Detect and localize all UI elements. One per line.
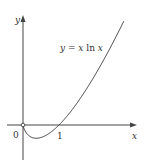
x-axis-label: x xyxy=(132,131,137,141)
y-axis-arrow-icon xyxy=(21,15,26,22)
function-curve xyxy=(23,21,123,138)
chart: y x 0 1 y = x ln x xyxy=(0,0,147,166)
tick-label-1: 1 xyxy=(57,131,63,141)
origin-open-circle xyxy=(21,123,25,127)
x-axis-arrow-icon xyxy=(130,123,137,128)
y-axis-label: y xyxy=(14,15,21,25)
function-label: y = x ln x xyxy=(59,43,103,53)
origin-label: 0 xyxy=(13,130,19,140)
